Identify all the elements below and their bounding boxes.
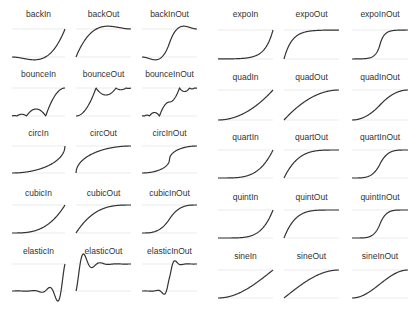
panel-quartOut: [284, 150, 339, 178]
panel-title: expoOut: [295, 9, 327, 19]
curve-circOut: [76, 146, 131, 173]
panel-sineOut: [284, 270, 339, 298]
panel-expoOut: [284, 30, 339, 59]
panel-elasticInOut: [142, 261, 197, 294]
panel-title: quintInOut: [360, 192, 399, 202]
panel-title: elasticOut: [85, 246, 123, 256]
panel-title: quadInOut: [360, 72, 400, 82]
panel-title: quintIn: [233, 192, 259, 202]
curve-quartIn: [218, 150, 273, 178]
panel-title: quintOut: [295, 192, 327, 202]
panel-quartInOut: [352, 150, 408, 178]
curve-quartOut: [284, 150, 339, 178]
curve-expoOut: [284, 30, 339, 59]
curve-quintIn: [218, 210, 273, 238]
curve-quintOut: [284, 210, 339, 238]
panel-elasticIn: [12, 264, 65, 301]
panel-bounceInOut: [142, 88, 197, 116]
curve-expoIn: [218, 30, 273, 59]
panel-title: backOut: [88, 9, 120, 19]
panel-title: elasticInOut: [147, 246, 192, 256]
panel-title: sineOut: [297, 251, 326, 261]
panel-cubicInOut: [142, 205, 197, 233]
chart-canvas: [0, 0, 416, 315]
panel-backInOut: [142, 26, 197, 60]
panel-circIn: [12, 146, 65, 173]
panel-bounceIn: [12, 88, 65, 116]
panel-title: circIn: [28, 128, 48, 138]
panel-title: quartIn: [232, 132, 258, 142]
panel-title: cubicIn: [25, 188, 52, 198]
panel-title: sineIn: [234, 251, 257, 261]
panel-elasticOut: [76, 254, 131, 291]
panel-title: expoInOut: [360, 9, 399, 19]
panel-title: quadIn: [233, 72, 259, 82]
curve-circInOut: [142, 146, 197, 173]
panel-title: circOut: [90, 128, 117, 138]
panel-quintInOut: [352, 210, 408, 238]
curve-backInOut: [142, 26, 197, 60]
panel-title: expoIn: [233, 9, 259, 19]
panel-quintOut: [284, 210, 339, 238]
curve-cubicIn: [12, 205, 65, 233]
panel-title: quadOut: [295, 72, 328, 82]
curve-expoInOut: [352, 30, 408, 59]
panel-title: cubicOut: [87, 188, 121, 198]
panel-circOut: [76, 146, 131, 173]
panel-bounceOut: [76, 88, 131, 116]
panel-quadInOut: [352, 90, 408, 120]
panel-sineInOut: [352, 270, 408, 298]
curve-sineInOut: [352, 270, 408, 298]
panel-title: elasticIn: [23, 246, 54, 256]
panel-title: bounceOut: [83, 69, 125, 79]
panel-title: backInOut: [150, 9, 189, 19]
panel-quadIn: [218, 90, 273, 120]
panel-title: bounceInOut: [145, 69, 194, 79]
curve-sineOut: [284, 270, 339, 298]
curve-bounceInOut: [142, 88, 197, 116]
curve-backIn: [12, 29, 65, 60]
panel-title: quartInOut: [360, 132, 400, 142]
curve-cubicOut: [76, 205, 131, 233]
panel-circInOut: [142, 146, 197, 173]
panel-quintIn: [218, 210, 273, 238]
curve-bounceIn: [12, 88, 65, 116]
panel-cubicIn: [12, 205, 65, 233]
curve-bounceOut: [76, 88, 131, 116]
curve-quadOut: [284, 90, 339, 120]
curve-quadInOut: [352, 90, 408, 120]
curve-circIn: [12, 146, 65, 173]
panel-title: bounceIn: [21, 69, 56, 79]
curve-cubicInOut: [142, 205, 197, 233]
curve-elasticOut: [76, 254, 131, 291]
panel-quartIn: [218, 150, 273, 178]
panel-quadOut: [284, 90, 339, 120]
curve-quartInOut: [352, 150, 408, 178]
panel-title: cubicInOut: [149, 188, 190, 198]
curve-sineIn: [218, 270, 273, 298]
panel-sineIn: [218, 270, 273, 298]
panel-expoIn: [218, 30, 273, 59]
panel-backIn: [12, 29, 65, 60]
curve-quadIn: [218, 90, 273, 120]
panel-cubicOut: [76, 205, 131, 233]
curve-elasticIn: [12, 264, 65, 301]
easing-chart-grid: backInbackOutbackInOutbounceInbounceOutb…: [0, 0, 416, 315]
panel-expoInOut: [352, 30, 408, 59]
curve-quintInOut: [352, 210, 408, 238]
panel-title: backIn: [26, 9, 51, 19]
panel-backOut: [76, 26, 131, 57]
curve-elasticInOut: [142, 261, 197, 294]
panel-title: quartOut: [295, 132, 328, 142]
panel-title: sineInOut: [362, 251, 398, 261]
panel-title: circInOut: [152, 128, 186, 138]
curve-backOut: [76, 26, 131, 57]
